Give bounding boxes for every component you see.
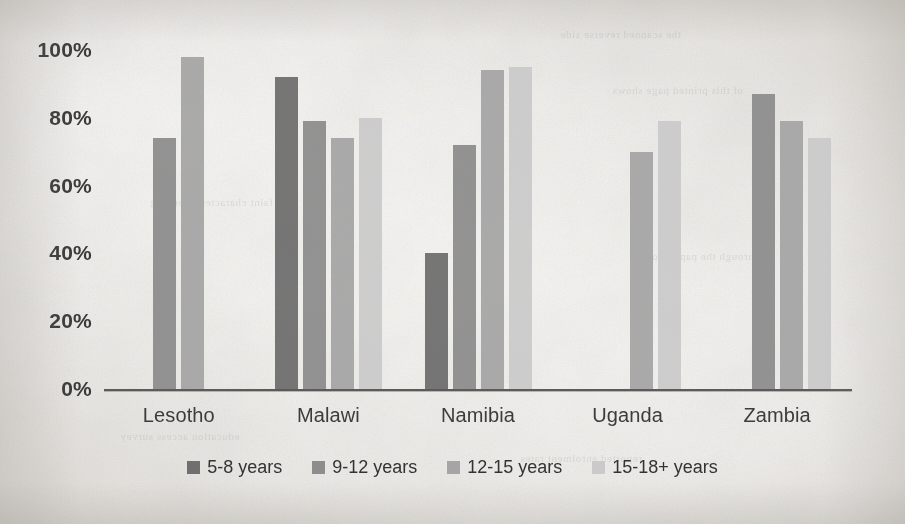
bar — [780, 121, 803, 389]
bar — [808, 138, 831, 389]
x-axis-baseline — [104, 389, 852, 391]
x-axis-category-label: Zambia — [702, 405, 852, 425]
bar — [453, 145, 476, 389]
y-axis-tick-label: 20% — [4, 310, 92, 331]
legend-item: 15-18+ years — [592, 458, 718, 476]
bar — [153, 138, 176, 389]
bar — [630, 152, 653, 389]
legend-swatch-icon — [592, 461, 605, 474]
y-axis-tick-label: 80% — [4, 107, 92, 128]
legend-item: 12-15 years — [447, 458, 562, 476]
bar — [181, 57, 204, 389]
legend-swatch-icon — [312, 461, 325, 474]
grouped-bar-chart: 100%80%60%40%20%0% LesothoMalawiNamibiaU… — [0, 0, 905, 524]
x-axis-category-label: Namibia — [403, 405, 553, 425]
legend-swatch-icon — [447, 461, 460, 474]
x-axis-category-label: Uganda — [553, 405, 703, 425]
bar — [658, 121, 681, 389]
bar — [752, 94, 775, 389]
legend-item: 5-8 years — [187, 458, 282, 476]
x-axis-category-label: Lesotho — [104, 405, 254, 425]
bar — [275, 77, 298, 389]
scanned-page: the scanned reverse sideof this printed … — [0, 0, 905, 524]
legend-swatch-icon — [187, 461, 200, 474]
bar — [509, 67, 532, 389]
bar — [425, 253, 448, 389]
bar — [331, 138, 354, 389]
y-axis-tick-label: 0% — [4, 378, 92, 399]
legend-label: 5-8 years — [207, 458, 282, 476]
bar — [303, 121, 326, 389]
bar — [359, 118, 382, 389]
legend-label: 9-12 years — [332, 458, 417, 476]
y-axis-tick-label: 40% — [4, 242, 92, 263]
legend-label: 15-18+ years — [612, 458, 718, 476]
legend-item: 9-12 years — [312, 458, 417, 476]
chart-legend: 5-8 years9-12 years12-15 years15-18+ yea… — [0, 458, 905, 476]
bar — [481, 70, 504, 389]
y-axis-tick-label: 60% — [4, 175, 92, 196]
legend-label: 12-15 years — [467, 458, 562, 476]
y-axis-tick-label: 100% — [4, 39, 92, 60]
x-axis-category-label: Malawi — [254, 405, 404, 425]
